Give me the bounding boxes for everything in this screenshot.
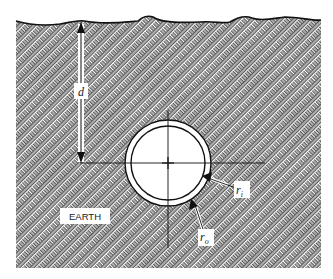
- earth-label: EARTH: [69, 211, 101, 222]
- diagram-canvas: d EARTH ri ro: [0, 0, 333, 279]
- depth-label: d: [78, 85, 85, 99]
